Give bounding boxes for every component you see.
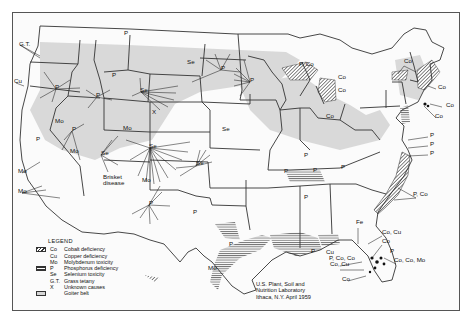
map-label: P xyxy=(221,64,225,71)
map-label: P xyxy=(36,135,40,142)
map-label: Co xyxy=(446,101,454,108)
credit-line-2: Nutrition Laboratory xyxy=(256,287,311,293)
map-label: Se xyxy=(101,149,109,156)
map-label: disease xyxy=(103,179,125,186)
map-label: Mo xyxy=(208,264,217,271)
map-label: Se xyxy=(222,125,230,132)
map-label: Co xyxy=(326,112,334,119)
map-label: P xyxy=(341,163,345,170)
map-label: Co xyxy=(382,237,390,244)
legend-item-goiter-belt: Goiter belt xyxy=(36,290,118,296)
map-label: P xyxy=(193,208,197,215)
map-label: Mo xyxy=(70,147,79,154)
map-label: P xyxy=(229,240,233,247)
map-label: Se xyxy=(196,159,204,166)
map-label: P xyxy=(390,247,394,254)
map-label: Cu xyxy=(14,77,22,84)
horizontal-hatch-swatch-icon xyxy=(36,266,46,271)
map-label: P xyxy=(96,91,100,98)
map-label: Mo xyxy=(123,124,132,131)
map-label: X xyxy=(152,108,156,115)
map-label: G.T. xyxy=(19,40,31,47)
map-label: Co xyxy=(435,112,443,119)
map-label: Co xyxy=(338,86,346,93)
map-label: Cu xyxy=(326,248,334,255)
legend: LEGEND Co Cobalt deficiency Cu Copper de… xyxy=(36,238,118,297)
map-label: Se xyxy=(140,86,148,93)
map-label: P xyxy=(430,149,434,156)
map-label: Co, Co, Mo xyxy=(394,256,426,263)
map-label: P xyxy=(250,76,254,83)
map-label: P xyxy=(284,167,288,174)
gray-fill-swatch-icon xyxy=(36,291,46,296)
map-label: P xyxy=(124,29,128,36)
map-label: P, Co xyxy=(413,190,428,197)
map-label: Co xyxy=(338,73,346,80)
map-label: P xyxy=(311,247,315,254)
map-label: Se xyxy=(187,58,195,65)
legend-title: LEGEND xyxy=(48,238,118,244)
map-label: P xyxy=(149,199,153,206)
map-label: Mo xyxy=(18,167,27,174)
map-label: Co xyxy=(438,83,446,90)
credit-block: U.S. Plant, Soil and Nutrition Laborator… xyxy=(256,281,311,300)
map-label: Co xyxy=(342,275,350,282)
map-label: Mo xyxy=(142,176,151,183)
map-label: P xyxy=(313,166,317,173)
map-label: P xyxy=(55,83,59,90)
diagonal-hatch-swatch-icon xyxy=(36,247,46,252)
map-label: Mo xyxy=(18,187,27,194)
map-label: Se xyxy=(149,142,157,149)
map-label: P, Co, Co xyxy=(329,254,356,261)
map-label: P xyxy=(430,131,434,138)
map-label: P xyxy=(304,151,308,158)
ray-cluster-co-se xyxy=(126,140,190,184)
map-label: P xyxy=(72,125,76,132)
map-label: P xyxy=(430,140,434,147)
map-label: Fe xyxy=(356,218,364,225)
map-label: P xyxy=(304,193,308,200)
map-label: P, Co xyxy=(299,60,314,67)
atlantic-coast-strip xyxy=(374,152,410,214)
ray-cluster-ne-se xyxy=(176,150,212,176)
map-label: Co, Cu xyxy=(330,260,350,267)
map-label: Co, Cu xyxy=(382,228,402,235)
map-label: Mo xyxy=(55,117,64,124)
map-label: Co xyxy=(404,57,412,64)
credit-line-3: Ithaca, N.Y. April 1959 xyxy=(256,294,311,300)
map-label: P xyxy=(112,71,116,78)
